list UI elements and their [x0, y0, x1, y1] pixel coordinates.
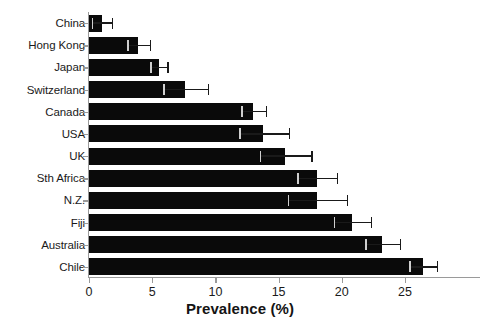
error-bar-cap: [337, 173, 338, 184]
error-bar-cap: [112, 18, 113, 29]
x-axis-tick-label: 5: [149, 285, 156, 299]
y-axis-tick: [83, 45, 88, 46]
x-axis-tick: [342, 278, 343, 283]
bar: [89, 170, 317, 187]
error-bar-cap: [371, 217, 372, 228]
x-axis-line: [88, 277, 480, 278]
x-axis-tick: [279, 278, 280, 283]
y-axis-label-fiji: Fiji: [0, 217, 85, 229]
error-bar-line: [297, 178, 336, 179]
bar: [89, 103, 253, 120]
error-bar-cap-inner: [260, 151, 261, 162]
y-axis-tick: [83, 156, 88, 157]
x-axis-tick: [405, 278, 406, 283]
error-bar-line: [150, 67, 167, 68]
bar: [89, 59, 159, 76]
x-axis-tick-label: 25: [398, 285, 412, 299]
error-bar-cap: [347, 195, 348, 206]
error-bar-line: [127, 45, 149, 46]
error-bar-cap: [208, 84, 209, 95]
y-axis-label-japan: Japan: [0, 61, 85, 73]
y-axis-tick: [83, 245, 88, 246]
bar: [89, 148, 285, 165]
error-bar-line: [92, 22, 112, 23]
error-bar-cap: [150, 40, 151, 51]
y-axis-tick: [83, 223, 88, 224]
y-axis-tick: [83, 200, 88, 201]
error-bar-cap-inner: [409, 261, 410, 272]
error-bar-cap: [289, 128, 290, 139]
y-axis-tick: [83, 23, 88, 24]
error-bar-line: [260, 155, 312, 156]
error-bar-cap: [311, 151, 312, 162]
y-axis-tick: [83, 67, 88, 68]
bar: [89, 236, 382, 253]
y-axis-label-sth-africa: Sth Africa: [0, 172, 85, 184]
x-axis-title: Prevalence (%): [0, 300, 480, 317]
error-bar-cap-inner: [163, 84, 164, 95]
x-axis-tick: [89, 278, 90, 283]
y-axis-label-canada: Canada: [0, 106, 85, 118]
error-bar-cap-inner: [241, 106, 242, 117]
y-axis-label-australia: Australia: [0, 239, 85, 251]
error-bar-cap: [400, 239, 401, 250]
y-axis-label-china: China: [0, 17, 85, 29]
error-bar-line: [365, 244, 400, 245]
y-axis-label-switzerland: Switzerland: [0, 84, 85, 96]
y-axis-label-n-z: N.Z.: [0, 194, 85, 206]
error-bar-cap-inner: [92, 18, 93, 29]
error-bar-line: [239, 133, 288, 134]
bar: [89, 125, 263, 142]
y-axis-label-uk: UK: [0, 150, 85, 162]
error-bar-line: [288, 200, 347, 201]
error-bar-cap-inner: [150, 62, 151, 73]
prevalence-bar-chart: ChinaHong KongJapanSwitzerlandCanadaUSAU…: [0, 0, 480, 330]
error-bar-line: [241, 111, 266, 112]
y-axis-tick: [83, 134, 88, 135]
x-axis-tick: [215, 278, 216, 283]
x-axis-tick-label: 10: [208, 285, 222, 299]
error-bar-cap-inner: [297, 173, 298, 184]
y-axis-tick: [83, 267, 88, 268]
y-axis-category-labels: ChinaHong KongJapanSwitzerlandCanadaUSAU…: [0, 12, 85, 278]
error-bar-cap-inner: [127, 40, 128, 51]
error-bar-cap: [437, 261, 438, 272]
y-axis-tick: [83, 90, 88, 91]
error-bar-cap-inner: [239, 128, 240, 139]
error-bar-line: [163, 89, 207, 90]
error-bar-line: [409, 266, 436, 267]
error-bar-cap-inner: [365, 239, 366, 250]
y-axis-tick: [83, 178, 88, 179]
y-axis-label-chile: Chile: [0, 261, 85, 273]
y-axis-label-hong-kong: Hong Kong: [0, 39, 85, 51]
error-bar-cap-inner: [334, 217, 335, 228]
bar: [89, 192, 317, 209]
bar: [89, 258, 423, 275]
error-bar-line: [334, 222, 371, 223]
y-axis-label-usa: USA: [0, 128, 85, 140]
bar: [89, 214, 352, 231]
plot-area: [89, 12, 480, 278]
y-axis-tick: [83, 112, 88, 113]
x-axis-tick-label: 0: [86, 285, 93, 299]
error-bar-cap: [266, 106, 267, 117]
x-axis-tick-label: 15: [272, 285, 286, 299]
x-axis-tick-label: 20: [335, 285, 349, 299]
error-bar-cap: [167, 62, 168, 73]
error-bar-cap-inner: [288, 195, 289, 206]
x-axis-tick: [152, 278, 153, 283]
